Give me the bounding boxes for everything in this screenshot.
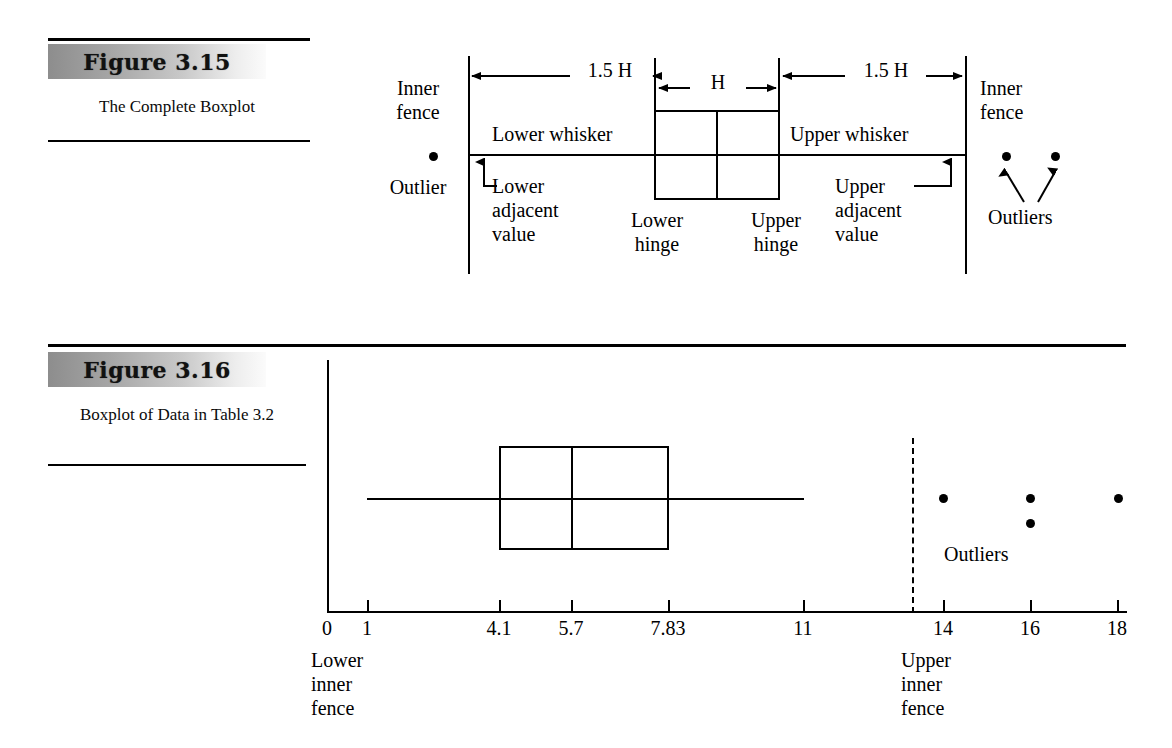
x-tick-label-4-1: 4.1 [469,616,529,640]
x-tick-label-7-83: 7.83 [633,616,703,640]
span-label-middle: H [692,70,744,94]
x-tick-label-18: 18 [1087,616,1147,640]
figure-3-16-number-bar: Figure 3.16 [48,352,266,387]
figure-3-16-title: Boxplot of Data in Table 3.2 [48,404,306,426]
figure-3-15-top-rule [48,38,310,41]
outlier-dot-right-2 [1051,152,1060,161]
x-axis [327,611,1127,613]
outlier-label-left: Outlier [372,175,464,199]
upper-inner-fence-label: Upper inner fence [901,648,1031,720]
x-tick-14 [943,600,945,612]
outlier-dot-18 [1114,494,1123,503]
outlier-dot-left [429,152,438,161]
upper-adjacent-value-label: Upper adjacent value [835,174,955,246]
span-label-right: 1.5 H [846,58,926,82]
outliers-label-right: Outliers [988,205,1118,229]
x-tick-7-83 [668,600,670,612]
left-inner-fence-label: Inner fence [372,76,464,124]
figure-3-15: Figure 3.15 The Complete Boxplot Inner f… [0,0,1172,330]
x-tick-label-1: 1 [337,616,397,640]
figure-3-16: Figure 3.16 Boxplot of Data in Table 3.2… [0,330,1172,748]
lower-inner-fence-label: Lower inner fence [311,648,441,720]
boxplot-median-line [571,446,573,550]
median-line [716,110,718,200]
upper-whisker-label: Upper whisker [790,122,1010,146]
outlier-dot-right-1 [1002,152,1011,161]
lower-adjacent-value-label: Lower adjacent value [492,174,612,246]
span-label-left: 1.5 H [570,58,650,82]
outlier-dot-16-upper [1026,494,1035,503]
x-tick-1 [367,600,369,612]
x-tick-4-1 [499,600,501,612]
right-inner-fence-line [965,56,967,274]
x-tick-label-11: 11 [773,616,833,640]
figure-3-15-number: Figure 3.15 [83,49,231,75]
upper-inner-fence-dashed-line [912,438,914,613]
figure-3-16-bottom-rule [48,464,306,466]
lower-whisker-label: Lower whisker [492,122,702,146]
x-tick-18 [1117,600,1119,612]
outliers-label: Outliers [944,542,1084,566]
figure-3-15-title: The Complete Boxplot [48,96,306,118]
x-tick-16 [1030,600,1032,612]
x-tick-label-5-7: 5.7 [541,616,601,640]
boxplot-box [499,446,669,550]
figure-3-15-number-bar: Figure 3.15 [48,44,266,79]
y-axis [327,360,329,613]
figure-3-16-top-rule [48,344,1126,347]
x-tick-0 [327,600,329,612]
figure-3-16-number: Figure 3.16 [83,357,231,383]
x-tick-5-7 [571,600,573,612]
left-inner-fence-line [468,56,470,274]
figure-3-15-bottom-rule [48,140,310,142]
outlier-dot-14 [939,494,948,503]
outlier-dot-16-lower [1026,519,1035,528]
x-tick-label-14: 14 [913,616,973,640]
upper-hinge-label: Upper hinge [726,208,826,256]
x-tick-label-16: 16 [1000,616,1060,640]
lower-hinge-label: Lower hinge [607,208,707,256]
right-inner-fence-label: Inner fence [980,76,1090,124]
x-tick-11 [803,600,805,612]
